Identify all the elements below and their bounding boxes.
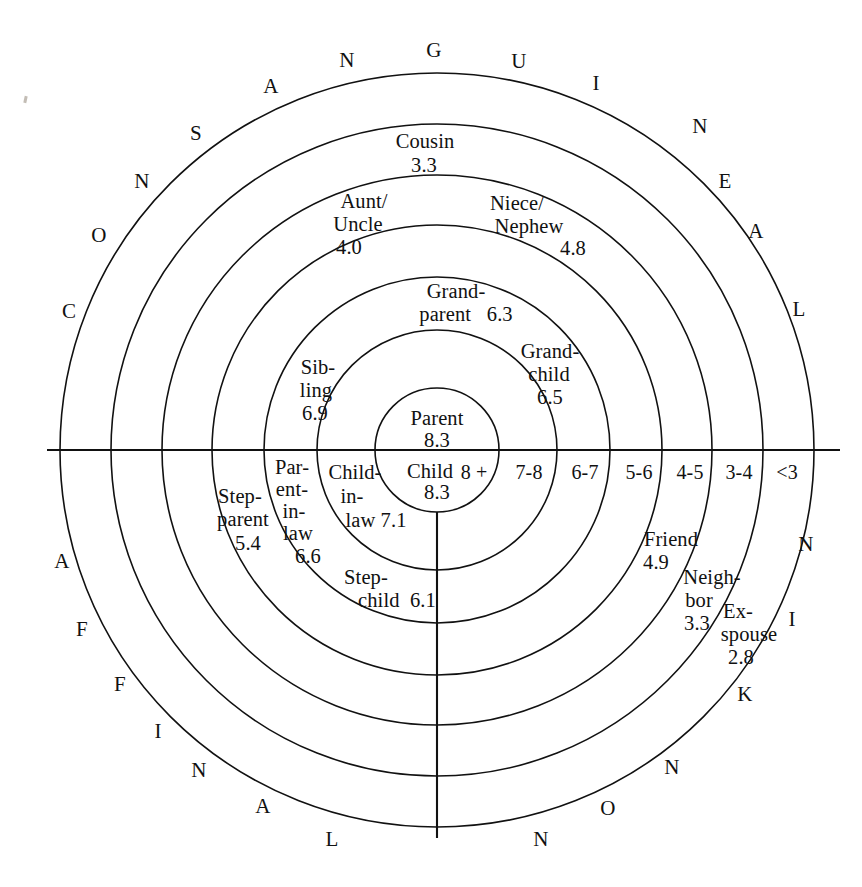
category-childinlaw-line1: Child- [329, 461, 382, 484]
category-parentinlaw-line3: in- [282, 500, 305, 523]
category-friend-value: 4.9 [643, 551, 669, 574]
category-stepchild-line2: child 6.1 [358, 589, 436, 612]
category-niecenephew-line2: Nephew [495, 215, 564, 238]
category-cousin-line1: Cousin [396, 130, 455, 153]
category-sibling-line1: Sib- [301, 356, 336, 379]
band-label-3-4: 3-4 [726, 461, 753, 483]
arc-letter-affinal-F1: F [76, 618, 88, 642]
category-parentinlaw-line4: law [283, 522, 313, 545]
diagram-canvas: 8 + 7-8 6-7 5-6 4-5 3-4 <3 Parent 8.3 Ch… [0, 0, 862, 887]
category-parent-value: 8.3 [424, 429, 450, 452]
band-label-lt3: <3 [776, 461, 797, 483]
category-parentinlaw-line1: Par- [275, 456, 309, 479]
arc-letter-consanguineal-L: L [793, 298, 806, 322]
band-label-8plus: 8 + [461, 461, 488, 483]
category-child-name: Child [407, 460, 453, 483]
arc-letter-affinal-N: N [191, 759, 206, 783]
arc-letter-affinal-F2: F [114, 673, 126, 697]
arc-letter-nonkin-N3: N [798, 533, 813, 557]
band-label-4-5: 4-5 [677, 461, 704, 483]
arc-letter-nonkin-K: K [737, 683, 752, 707]
band-label-7-8: 7-8 [516, 461, 543, 483]
category-childinlaw-line2: in- [340, 485, 363, 508]
category-stepparent-value: 5.4 [235, 532, 261, 555]
arc-letter-consanguineal-S: S [190, 122, 202, 146]
arc-letter-consanguineal-A2: A [748, 220, 763, 244]
category-neighbor-line2: bor [685, 589, 713, 612]
category-auntuncle-line2: Uncle [333, 213, 382, 236]
arc-letter-affinal-L: L [326, 828, 339, 852]
arc-letter-affinal-I: I [154, 720, 161, 744]
category-niecenephew-value: 4.8 [560, 237, 586, 260]
category-cousin-value: 3.3 [411, 154, 437, 177]
category-exspouse-value: 2.8 [728, 646, 754, 669]
arc-letter-affinal-A1: A [54, 550, 69, 574]
category-grandchild-line2: child [528, 363, 570, 386]
category-stepchild-line1: Step- [344, 566, 388, 589]
arc-letter-consanguineal-A1: A [263, 75, 278, 99]
arc-letter-consanguineal-I1: I [592, 72, 599, 96]
arc-letter-consanguineal-N1: N [134, 170, 149, 194]
category-grandparent-line1: Grand- [427, 280, 486, 303]
arc-letter-consanguineal-G: G [426, 39, 441, 63]
category-parentinlaw-value: 6.6 [295, 545, 321, 568]
category-exspouse-line1: Ex- [723, 600, 753, 623]
category-grandparent-line2: parent 6.3 [419, 303, 512, 326]
category-stepparent-line1: Step- [218, 485, 262, 508]
category-auntuncle-value: 4.0 [336, 236, 362, 259]
arc-letter-consanguineal-C: C [62, 300, 76, 324]
arc-letter-nonkin-N1: N [533, 828, 548, 852]
category-grandchild-line1: Grand- [521, 340, 580, 363]
category-grandchild-value: 6.5 [537, 386, 563, 409]
category-neighbor-value: 3.3 [684, 612, 710, 635]
category-parentinlaw-line2: ent- [276, 478, 308, 501]
category-auntuncle-line1: Aunt/ [340, 190, 387, 213]
arc-letter-consanguineal-N2: N [339, 49, 354, 73]
arc-letter-consanguineal-E: E [719, 170, 732, 194]
category-stepparent-line2: parent [217, 508, 269, 531]
arc-letter-consanguineal-O: O [91, 224, 106, 248]
arc-letter-nonkin-I: I [788, 608, 795, 632]
category-childinlaw-line3: law 7.1 [345, 509, 406, 532]
category-neighbor-line1: Neigh- [683, 566, 741, 589]
arc-letter-nonkin-O: O [600, 797, 615, 821]
arc-letter-nonkin-N2: N [664, 756, 679, 780]
category-friend-line1: Friend [644, 528, 698, 551]
arc-letter-affinal-A2: A [255, 795, 270, 819]
category-sibling-value: 6.9 [302, 402, 328, 425]
band-label-5-6: 5-6 [626, 461, 653, 483]
band-label-6-7: 6-7 [572, 461, 599, 483]
category-child-value: 8.3 [424, 481, 450, 504]
category-niecenephew-line1: Niece/ [490, 192, 544, 215]
category-parent-name: Parent [411, 407, 464, 430]
arc-letter-consanguineal-N3: N [692, 115, 707, 139]
arc-letter-consanguineal-U: U [511, 50, 526, 74]
category-sibling-line2: ling [300, 379, 332, 402]
category-exspouse-line2: spouse [721, 623, 777, 646]
